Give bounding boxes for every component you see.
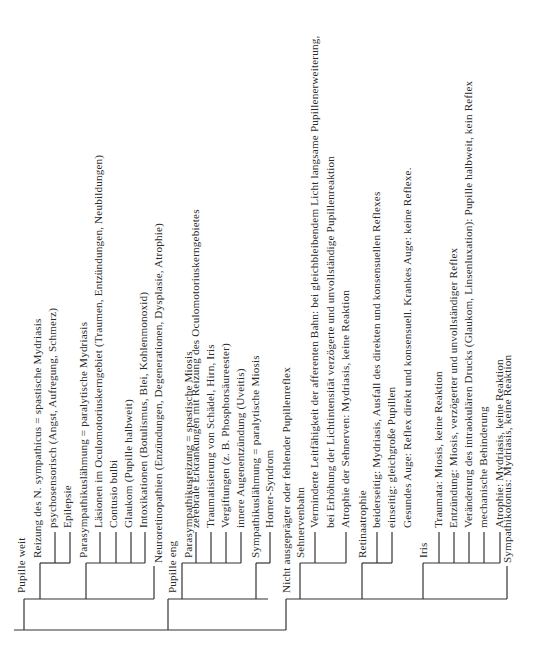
node-sympathikotonus: Sympathikotonus: Mydriasis, keine Reakti… [501, 355, 514, 563]
node-glaukom: Glaukom (Pupille halbweit) [122, 399, 135, 528]
pupil-reflex-tree-diagram: Pupille weit Reizung des N. sympathicus … [0, 0, 549, 656]
node-sehnervenbahn: Sehnervenbahn [294, 487, 307, 558]
node-mechanische-behinderung: mechanische Behinderung [477, 406, 490, 528]
node-zerebrale-erkrankungen: zerebrale Erkrankungen mit Reizung des O… [189, 209, 202, 528]
node-beiderseitig: beiderseitig: Mydriasis, Ausfall des dir… [370, 192, 383, 528]
node-contusio-bulbi: Contusio bulbi [107, 460, 120, 528]
node-verminderte-leitfaehigkeit: Verminderte Leitfähigkeit der afferenten… [308, 36, 321, 528]
node-traumatisierung: Traumatisierung von Schädel, Hirn, Iris [204, 344, 217, 528]
node-psychosensorisch: psychosensorisch (Angst, Aufregung, Schm… [46, 308, 59, 528]
node-sympathikuslaehmung: Sympathikuslähmung = paralytische Miosis [249, 355, 262, 558]
node-innere-augenentzuendung: innere Augenentzündung (Uveitis) [234, 368, 247, 528]
node-entzuendung: Entzündung: Miosis, verzögerter und unvo… [447, 248, 460, 528]
node-neuroretinopathien: Neuroretinopathien (Enzündungen, Degener… [152, 223, 165, 563]
node-intoxikationen: Intoxikationen (Botulismus, Blei, Kohlen… [137, 292, 150, 528]
node-retinaatrophie: Retinaatrophie [356, 490, 369, 558]
node-parasympathikuslaehmung: Parasympathikuslähmung = paralytische My… [77, 322, 90, 558]
node-traumata: Traumata: Miosis, keine Reaktion [432, 371, 445, 528]
node-nicht-ausgepraegter-reflex: Nicht ausgeprägter oder fehlender Pupill… [280, 367, 293, 593]
node-gesundes-auge: Gesundes Auge: Reflex direkt und konsens… [401, 167, 414, 528]
node-pupille-weit: Pupille weit [15, 537, 28, 593]
node-pupille-eng: Pupille eng [166, 541, 179, 593]
node-einseitig: einseitig: gleichgroße Pupillen [385, 387, 398, 528]
node-iris: Iris [417, 542, 430, 558]
node-veraenderung-druck: Veränderung des intraokulären Drucks (Gl… [462, 81, 475, 528]
node-erhoehung-lichtintensitaet: bei Erhöhung der Lichtintensität verzöge… [324, 156, 337, 528]
node-epilepsie: Epilepsie [61, 485, 74, 528]
node-laesionen: Läsionen im Oculomotoriuskerngebiet (Tra… [92, 155, 105, 528]
node-horner-syndrom: Horner-Syndrom [263, 450, 276, 528]
node-vergiftungen: Vergiftungen (z. B. Phosphorsäureester) [219, 343, 232, 528]
node-atrophie-sehnerven: Atrophie der Sehnerven: Mydriasis, keine… [339, 290, 352, 528]
node-reizung-sympathicus: Reizung des N. sympathicus = spastische … [31, 318, 44, 558]
